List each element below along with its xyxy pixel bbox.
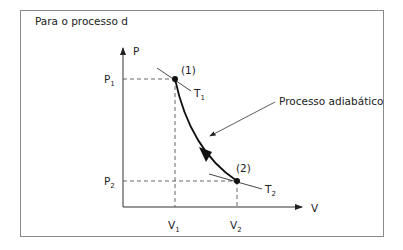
- annotation-label: Processo adiabático: [279, 95, 383, 107]
- x-axis-label: V: [311, 202, 319, 214]
- adiabatic-curve: [175, 79, 237, 181]
- direction-arrow-icon: [199, 147, 212, 162]
- point-2: [234, 178, 240, 184]
- t2-label: T2: [264, 183, 276, 198]
- point-1-label: (1): [181, 64, 196, 76]
- pv-diagram: P V (1) (2) P1 P2 V1 V2 T1 T2 Processo a…: [0, 0, 403, 250]
- v2-label: V2: [230, 219, 242, 234]
- p2-label: P2: [104, 175, 115, 190]
- v1-label: V1: [168, 219, 180, 234]
- point-1: [172, 76, 178, 82]
- y-axis-label: P: [133, 45, 139, 57]
- annotation-arrow: [210, 102, 275, 136]
- t1-label: T1: [193, 87, 205, 102]
- p1-label: P1: [104, 73, 115, 88]
- point-2-label: (2): [236, 162, 251, 174]
